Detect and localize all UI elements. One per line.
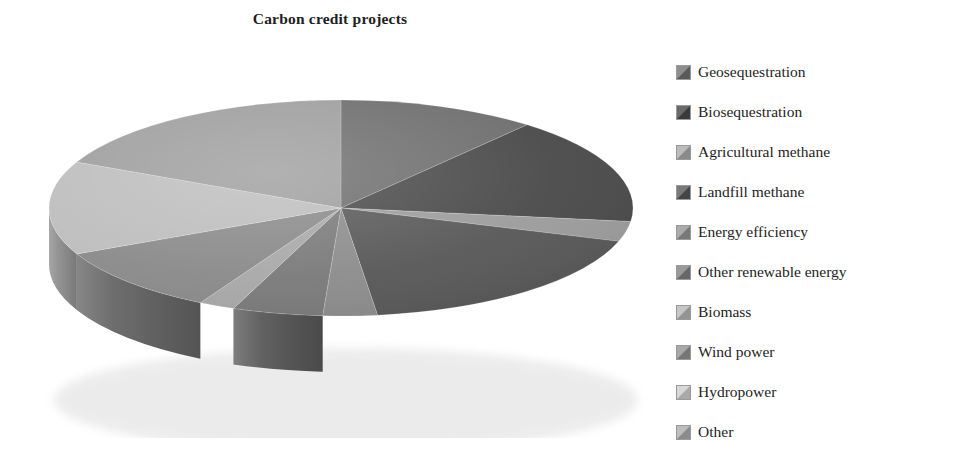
pie-chart-plot (28, 48, 648, 438)
pie-3d-graphic (28, 48, 648, 438)
legend-item-label: Biomass (698, 304, 751, 320)
legend-item[interactable]: Landfill methane (676, 172, 961, 212)
legend-item[interactable]: Other renewable energy (676, 252, 961, 292)
legend: GeosequestrationBiosequestrationAgricult… (676, 52, 961, 452)
pie-top-slices (49, 100, 633, 316)
legend-item-label: Geosequestration (698, 64, 806, 80)
legend-item-label: Other (698, 424, 733, 440)
legend-item-label: Wind power (698, 344, 774, 360)
legend-swatch-icon (676, 385, 691, 400)
legend-item-label: Other renewable energy (698, 264, 847, 280)
legend-swatch-icon (676, 305, 691, 320)
legend-item[interactable]: Geosequestration (676, 52, 961, 92)
legend-item[interactable]: Energy efficiency (676, 212, 961, 252)
pie-slice-wall-sheen (234, 308, 323, 371)
legend-item[interactable]: Other (676, 412, 961, 452)
legend-swatch-icon (676, 145, 691, 160)
legend-swatch-icon (676, 105, 691, 120)
legend-item[interactable]: Biomass (676, 292, 961, 332)
legend-item[interactable]: Agricultural methane (676, 132, 961, 172)
legend-swatch-icon (676, 225, 691, 240)
legend-swatch-icon (676, 65, 691, 80)
legend-swatch-icon (676, 345, 691, 360)
legend-swatch-icon (676, 185, 691, 200)
legend-item-label: Hydropower (698, 384, 776, 400)
legend-item[interactable]: Hydropower (676, 372, 961, 412)
legend-item-label: Energy efficiency (698, 224, 808, 240)
legend-item-label: Landfill methane (698, 184, 804, 200)
legend-item[interactable]: Biosequestration (676, 92, 961, 132)
legend-item-label: Agricultural methane (698, 144, 830, 160)
legend-swatch-icon (676, 425, 691, 440)
page-title: Carbon credit projects (0, 10, 660, 28)
pie-chart-figure: Carbon credit projects (0, 0, 961, 460)
legend-swatch-icon (676, 265, 691, 280)
legend-item-label: Biosequestration (698, 104, 802, 120)
pie-drop-shadow (54, 348, 638, 438)
legend-item[interactable]: Wind power (676, 332, 961, 372)
